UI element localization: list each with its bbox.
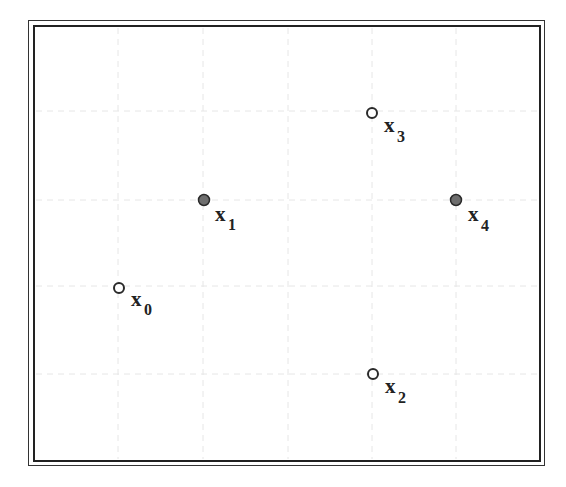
point-subscript: 1 <box>228 216 236 233</box>
point-subscript: 3 <box>397 128 405 145</box>
point-subscript: 4 <box>481 217 489 234</box>
filled-circle-marker <box>199 195 210 206</box>
point-label: x <box>215 202 226 226</box>
point-diagram: x 0 x 1 x 2 x 3 x 4 <box>0 0 566 487</box>
open-circle-marker <box>368 369 378 379</box>
point-label: x <box>384 113 395 137</box>
points-layer: x 0 x 1 x 2 x 3 x 4 <box>114 108 489 406</box>
open-circle-marker <box>367 108 377 118</box>
point-label: x <box>385 374 396 398</box>
point-label: x <box>468 202 479 226</box>
grid-lines <box>36 28 538 459</box>
filled-circle-marker <box>451 195 462 206</box>
open-circle-marker <box>114 283 124 293</box>
point-x0: x 0 <box>114 283 152 318</box>
point-x3: x 3 <box>367 108 405 145</box>
point-label: x <box>131 287 142 311</box>
point-subscript: 2 <box>398 389 406 406</box>
point-subscript: 0 <box>144 301 152 318</box>
point-x2: x 2 <box>368 369 406 406</box>
